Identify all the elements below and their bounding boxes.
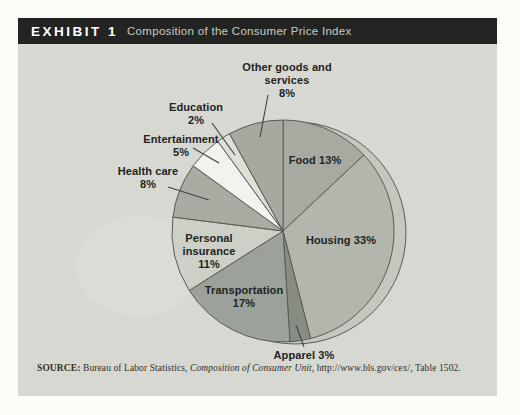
label-other-goods-line2: services [242,74,332,87]
label-education: Education 2% [169,101,223,127]
source-note: SOURCE: Bureau of Labor Statistics, Comp… [37,363,482,373]
label-education-value: 2% [169,114,223,127]
label-education-line1: Education [169,101,223,114]
label-food: Food 13% [289,154,342,167]
label-food-line1: Food 13% [289,154,342,167]
label-other-goods: Other goods and services 8% [242,61,332,100]
label-health-care-value: 8% [118,178,178,191]
label-other-goods-line1: Other goods and [242,61,332,74]
exhibit-title: Composition of the Consumer Price Index [127,25,352,37]
label-personal-insurance-line1: Personal [183,232,236,245]
label-health-care-line1: Health care [118,165,178,178]
label-transportation-value: 17% [205,297,283,310]
label-housing: Housing 33% [306,234,376,247]
source-italic-title: Composition of Consumer Unit [190,363,312,373]
label-health-care: Health care 8% [118,165,178,191]
label-transportation-line1: Transportation [205,284,283,297]
label-entertainment-line1: Entertainment [143,133,218,146]
exhibit-header-bar: EXHIBIT 1 Composition of the Consumer Pr… [18,18,497,44]
source-prefix: SOURCE: [37,363,80,373]
label-entertainment-value: 5% [143,146,218,159]
label-apparel: Apparel 3% [274,349,335,362]
source-text-2: , http://www.bls.gov/cex/, Table 1502. [312,363,461,373]
exhibit-label: EXHIBIT 1 [31,24,118,39]
label-transportation: Transportation 17% [205,284,283,310]
source-text-1: Bureau of Labor Statistics, [80,363,190,373]
label-personal-insurance: Personal insurance 11% [183,232,236,271]
label-apparel-line1: Apparel 3% [274,349,335,362]
pie-chart-area: Other goods and services 8% Education 2%… [18,44,497,396]
label-entertainment: Entertainment 5% [143,133,218,159]
label-personal-insurance-value: 11% [183,258,236,271]
label-personal-insurance-line2: insurance [183,245,236,258]
label-other-goods-value: 8% [242,87,332,100]
page: { "header": { "exhibit_label": "EXHIBIT … [0,0,520,415]
label-housing-line1: Housing 33% [306,234,376,247]
exhibit-box: EXHIBIT 1 Composition of the Consumer Pr… [18,18,497,396]
